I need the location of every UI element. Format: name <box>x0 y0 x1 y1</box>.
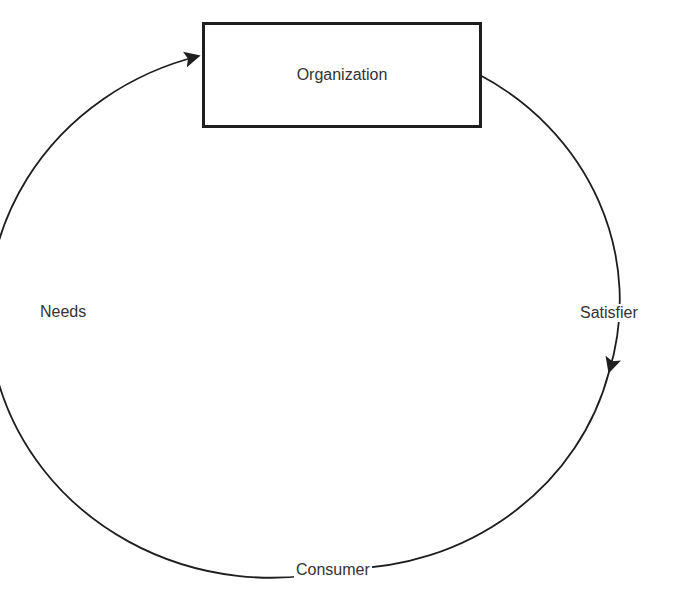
organization-label: Organization <box>297 66 388 84</box>
satisfier-arc <box>478 74 620 372</box>
satisfier-arc-lower <box>343 372 609 569</box>
needs-label: Needs <box>38 303 88 321</box>
consumer-label: Consumer <box>294 561 372 579</box>
organization-box: Organization <box>202 22 482 128</box>
satisfier-label: Satisfier <box>578 304 640 322</box>
